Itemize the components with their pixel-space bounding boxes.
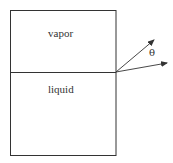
angle-theta-label: θ [149,47,155,58]
phase-diagram: vapor liquid θ [0,0,173,163]
vapor-label: vapor [48,27,73,39]
liquid-label: liquid [48,83,74,95]
lower-arrow [116,63,167,72]
